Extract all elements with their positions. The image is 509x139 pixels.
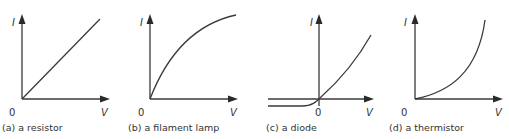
x-axis-arrow-icon (493, 96, 503, 103)
iv-curve-concave-down (150, 15, 236, 99)
origin-label: 0 (138, 107, 144, 118)
panel-thermistor: I 0 V (d) a thermistor (389, 14, 503, 133)
origin-label: 0 (315, 107, 321, 118)
caption-diode: (c) a diode (266, 122, 317, 133)
iv-curve-linear (22, 19, 100, 99)
iv-characteristics-figure: I 0 V (a) a resistor I 0 V (b) a filamen… (0, 0, 509, 139)
iv-curve-concave-up (415, 20, 485, 99)
x-axis-label: V (366, 107, 374, 118)
panel-diode: I 0 V (c) a diode (266, 14, 374, 133)
y-axis-label: I (310, 17, 313, 28)
y-axis-arrow-icon (19, 14, 26, 24)
x-axis-arrow-icon (364, 96, 374, 103)
caption-filament-lamp: (b) a filament lamp (128, 122, 219, 133)
x-axis-label: V (101, 107, 109, 118)
x-axis-arrow-icon (228, 96, 238, 103)
y-axis-arrow-icon (147, 14, 154, 24)
panel-resistor: I 0 V (a) a resistor (2, 14, 110, 133)
x-axis-label: V (495, 107, 503, 118)
y-axis-label: I (404, 17, 407, 28)
origin-label: 0 (401, 107, 407, 118)
y-axis-arrow-icon (412, 14, 419, 24)
y-axis-arrow-icon (316, 14, 323, 24)
x-axis-label: V (230, 107, 238, 118)
x-axis-arrow-icon (100, 96, 110, 103)
y-axis-label: I (140, 17, 143, 28)
panel-filament-lamp: I 0 V (b) a filament lamp (128, 14, 238, 133)
y-axis-label: I (12, 17, 15, 28)
origin-label: 0 (9, 107, 15, 118)
caption-resistor: (a) a resistor (2, 122, 63, 133)
caption-thermistor: (d) a thermistor (389, 122, 464, 133)
